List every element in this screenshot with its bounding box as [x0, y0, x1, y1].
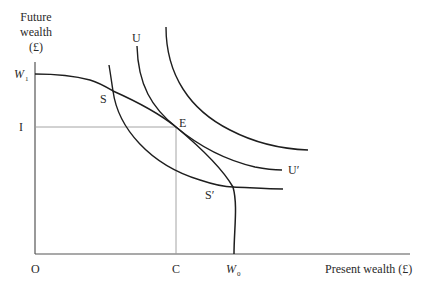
point-label-s: S	[100, 93, 107, 105]
tick-label-w0-main: W	[226, 262, 236, 276]
tick-label-w1: W1	[14, 68, 29, 83]
x-axis-label: Present wealth (£)	[325, 263, 412, 275]
indifference-curve-high	[166, 27, 308, 150]
curve-label-u: U	[132, 32, 141, 44]
tick-label-w0: W0	[226, 263, 241, 278]
diagram-canvas	[0, 0, 426, 289]
y-axis-label-line-3: (£)	[14, 40, 58, 55]
y-axis-label: Future wealth (£)	[14, 10, 58, 55]
tick-label-w0-subscript: 0	[237, 270, 241, 278]
indifference-curve-u	[137, 46, 282, 170]
curve-label-u-prime: U′	[288, 164, 299, 176]
y-axis-label-line-1: Future	[14, 10, 58, 25]
point-label-s-prime: S′	[205, 189, 214, 201]
origin-label: O	[31, 263, 40, 275]
tick-label-w1-subscript: 1	[25, 75, 29, 83]
tick-label-i: I	[19, 121, 23, 133]
point-label-e: E	[179, 117, 186, 129]
y-axis-label-line-2: wealth	[14, 25, 58, 40]
intertemporal-choice-diagram: Future wealth (£) W1 I O C W0 Present we…	[0, 0, 426, 289]
production-frontier-curve	[35, 74, 236, 254]
tick-label-w1-main: W	[14, 67, 24, 81]
tick-label-c: C	[172, 263, 180, 275]
